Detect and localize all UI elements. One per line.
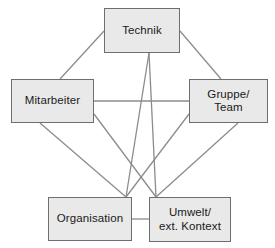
edge-mitarbeiter-umwelt — [94, 114, 156, 197]
edge-technik-organisation — [126, 53, 149, 197]
edge-technik-umwelt — [149, 53, 156, 197]
edges-group — [40, 31, 238, 219]
node-mitarbeiter-label: Mitarbeiter — [23, 94, 82, 108]
edge-technik-mitarbeiter — [60, 31, 104, 79]
sociotechnical-system-diagram: Technik Mitarbeiter Gruppe/ Team Organis… — [0, 0, 275, 248]
node-organisation-label: Organisation — [55, 212, 125, 226]
node-umwelt-externer-kontext[interactable]: Umwelt/ ext. Kontext — [149, 197, 231, 242]
node-gruppe-team-label: Gruppe/ Team — [205, 88, 251, 115]
node-mitarbeiter[interactable]: Mitarbeiter — [11, 79, 94, 123]
edge-gruppe-umwelt — [156, 123, 238, 197]
edge-technik-gruppe — [180, 31, 221, 79]
node-umwelt-externer-kontext-label: Umwelt/ ext. Kontext — [157, 206, 223, 233]
node-gruppe-team[interactable]: Gruppe/ Team — [189, 79, 268, 123]
node-organisation[interactable]: Organisation — [48, 197, 132, 241]
edge-gruppe-organisation — [126, 114, 189, 197]
edge-mitarbeiter-organisation — [40, 123, 126, 197]
node-technik[interactable]: Technik — [104, 8, 180, 53]
node-technik-label: Technik — [120, 24, 164, 38]
